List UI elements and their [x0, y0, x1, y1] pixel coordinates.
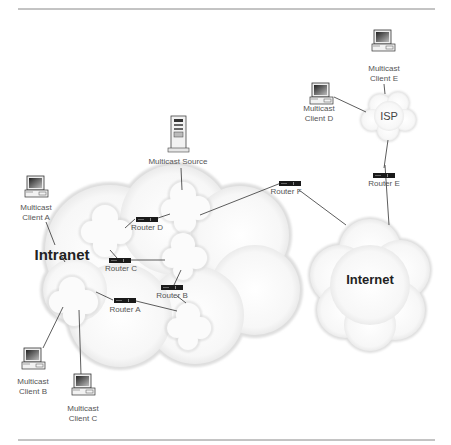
router-b-label: Router B	[156, 291, 188, 301]
client-c-label-line2: Client C	[67, 414, 99, 424]
intranet-label: Intranet	[34, 246, 89, 263]
router-d-icon[interactable]	[136, 217, 158, 222]
router-b-icon[interactable]	[161, 285, 183, 290]
network-diagram: Intranet Internet ISP Multicast Source M…	[0, 0, 451, 445]
client-a-label: Multicast Client A	[20, 203, 52, 223]
client-b-label-line1: Multicast	[17, 377, 49, 387]
link-isp-routerE	[384, 140, 388, 168]
isp-label: ISP	[380, 110, 398, 122]
client-e-label-line2: Client E	[368, 74, 400, 84]
internet-label: Internet	[346, 272, 394, 287]
link-clientD-isp	[334, 97, 366, 112]
client-d-label-line1: Multicast	[303, 104, 335, 114]
link-clientE-isp	[384, 84, 385, 94]
client-e-label: Multicast Client E	[368, 64, 400, 84]
client-b-label: Multicast Client B	[17, 377, 49, 397]
router-c-icon[interactable]	[109, 258, 131, 263]
client-c-label-line1: Multicast	[67, 404, 99, 414]
router-e-icon[interactable]	[373, 173, 395, 178]
client-d-computer-icon[interactable]	[310, 83, 333, 104]
router-d-label: Router D	[131, 223, 163, 233]
router-a-icon[interactable]	[114, 298, 136, 303]
router-f-label: Router F	[270, 187, 301, 197]
client-b-computer-icon[interactable]	[22, 348, 45, 369]
client-a-label-line1: Multicast	[20, 203, 52, 213]
client-a-label-line2: Client A	[20, 213, 52, 223]
client-c-computer-icon[interactable]	[72, 374, 95, 395]
router-f-icon[interactable]	[279, 181, 301, 186]
client-e-computer-icon[interactable]	[372, 30, 395, 51]
client-e-label-line1: Multicast	[368, 64, 400, 74]
client-b-label-line2: Client B	[17, 387, 49, 397]
client-d-label: Multicast Client D	[303, 104, 335, 124]
link-routerF-internet	[299, 190, 346, 225]
router-e-label: Router E	[368, 179, 400, 189]
router-a-label: Router A	[109, 305, 140, 315]
client-d-label-line2: Client D	[303, 114, 335, 124]
server-icon[interactable]	[168, 116, 189, 152]
client-c-label: Multicast Client C	[67, 404, 99, 424]
client-a-computer-icon[interactable]	[25, 176, 48, 197]
multicast-source-label: Multicast Source	[148, 157, 207, 167]
router-c-label: Router C	[105, 264, 137, 274]
